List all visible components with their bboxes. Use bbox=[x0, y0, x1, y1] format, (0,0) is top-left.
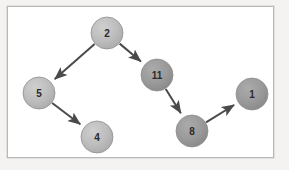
edge-layer bbox=[52, 44, 234, 125]
node-circle[interactable] bbox=[91, 17, 123, 49]
directed-graph: 2511481 bbox=[0, 0, 289, 170]
graph-node-2[interactable]: 2 bbox=[91, 17, 123, 49]
node-circle[interactable] bbox=[81, 121, 113, 153]
graph-node-1[interactable]: 1 bbox=[236, 78, 268, 110]
graph-node-8[interactable]: 8 bbox=[176, 115, 208, 147]
graph-node-11[interactable]: 11 bbox=[141, 59, 173, 91]
node-layer: 2511481 bbox=[23, 17, 268, 153]
graph-edge-2-to-5 bbox=[55, 44, 95, 79]
graph-node-5[interactable]: 5 bbox=[23, 77, 55, 109]
graph-edge-2-to-11 bbox=[120, 44, 141, 62]
graph-edge-8-to-1 bbox=[206, 105, 234, 122]
node-circle[interactable] bbox=[23, 77, 55, 109]
graph-edge-11-to-8 bbox=[166, 89, 181, 113]
node-circle[interactable] bbox=[236, 78, 268, 110]
graph-node-4[interactable]: 4 bbox=[81, 121, 113, 153]
figure-canvas: 2511481 bbox=[0, 0, 289, 170]
node-circle[interactable] bbox=[176, 115, 208, 147]
node-circle[interactable] bbox=[141, 59, 173, 91]
graph-edge-5-to-4 bbox=[52, 103, 80, 124]
